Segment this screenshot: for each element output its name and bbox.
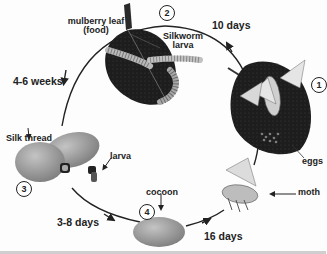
duration-3-8-days: 3-8 days bbox=[57, 217, 99, 228]
moth bbox=[221, 158, 296, 212]
larva-head-1 bbox=[60, 163, 70, 173]
label-mulberry-leaf-line2: (food) bbox=[66, 26, 126, 35]
stage-marker-1: 1 bbox=[311, 77, 327, 93]
duration-16-days: 16 days bbox=[204, 231, 243, 242]
label-silkworm-larva-line2: larva bbox=[158, 41, 208, 50]
stage-marker-2: 2 bbox=[159, 5, 175, 21]
label-silkworm-larva: Silkworm larva bbox=[158, 32, 208, 51]
stage-marker-4: 4 bbox=[139, 204, 155, 220]
stage-marker-3: 3 bbox=[16, 181, 32, 197]
duration-10-days: 10 days bbox=[212, 20, 251, 31]
leaf-with-moths-and-eggs bbox=[228, 60, 311, 158]
label-mulberry-leaf: mulberry leaf (food) bbox=[66, 17, 126, 36]
label-larva: larva bbox=[110, 152, 131, 161]
label-silk-thread: Silk thread bbox=[6, 134, 52, 143]
label-cocoon: cocoon bbox=[146, 188, 178, 197]
cocoon bbox=[133, 194, 185, 247]
larva-head-2 bbox=[88, 166, 97, 182]
duration-4-6-weeks: 4-6 weeks bbox=[13, 76, 63, 87]
label-eggs: eggs bbox=[302, 157, 323, 166]
label-moth: moth bbox=[298, 188, 320, 197]
